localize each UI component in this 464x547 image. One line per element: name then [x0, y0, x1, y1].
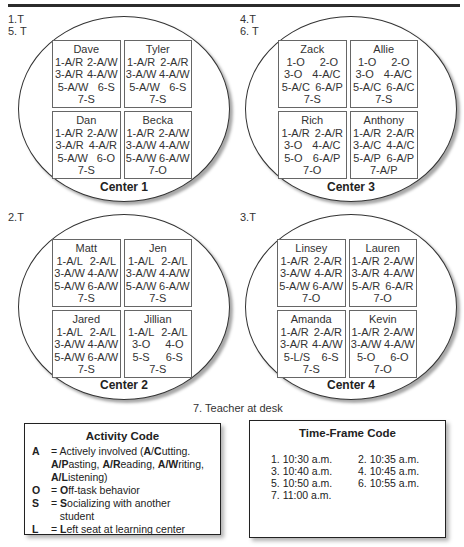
observation-code: 1-A/R — [281, 326, 309, 339]
observation-code: 6-O — [97, 152, 115, 165]
time-frame-legend: Time-Frame Code 1. 10:30 a.m.2. 10:35 a.… — [249, 420, 446, 538]
observation-row: 5-A/W6-A/W — [125, 280, 192, 293]
observation-row: 7-S — [351, 93, 418, 106]
observation-code: 1-A/R — [353, 127, 381, 140]
observation-row: 7-S — [53, 93, 120, 106]
observation-code: 7-S — [78, 363, 95, 376]
observation-code: 4-A/C — [312, 139, 340, 152]
observation-row: 5-A/W6-S — [125, 81, 192, 94]
observation-row: 5-A/W6-A/W — [53, 351, 120, 364]
observation-code: 2-A/R — [314, 255, 342, 268]
observation-row: 5-A/W6-A/W — [278, 280, 345, 293]
observation-code: 2-A/L — [90, 326, 116, 339]
time-label-center1: 1.T 5. T — [8, 13, 27, 37]
observation-row: 7-S — [125, 292, 192, 305]
observation-code: 3-A/R — [280, 338, 308, 351]
observation-code: 2-A/L — [90, 255, 116, 268]
observation-code: 5-L/S — [284, 351, 310, 364]
observation-code: 1-A/L — [56, 326, 82, 339]
observation-row: 1-A/L2-A/L — [125, 326, 192, 339]
observation-code: 2-A/R — [315, 127, 343, 140]
time-frame-item: 6. 10:55 a.m. — [358, 477, 445, 489]
observation-code: 6-A/W — [88, 351, 119, 364]
observation-code: 4-A/W — [383, 267, 414, 280]
observation-code: 3-A/W — [351, 338, 382, 351]
observation-code: 6-A/P — [315, 81, 343, 94]
time-label: 4.T — [240, 13, 259, 25]
student-seat: Allie1-O2-O3-O4-A/C5-A/C6-A/C7-S — [350, 40, 419, 108]
observation-code: 7-S — [78, 164, 95, 177]
student-seat: Anthony1-A/R2-A/R3-A/C4-A/C5-A/P6-A/P7-A… — [350, 111, 419, 179]
observation-code: 1-A/R — [282, 127, 310, 140]
time-frame-item: 2. 10:35 a.m. — [358, 453, 445, 465]
observation-row: 7-O — [350, 363, 417, 376]
observation-code: 3-A/R — [351, 267, 379, 280]
observation-code: 2-A/W — [158, 127, 189, 140]
activity-code-key: L — [25, 523, 51, 536]
observation-code: 6-A/W — [159, 280, 190, 293]
observation-code: 2-A/L — [161, 326, 187, 339]
observation-row: 7-S — [53, 164, 120, 177]
observation-row: 1-O2-O — [279, 56, 346, 69]
observation-code: 4-A/R — [89, 139, 117, 152]
observation-code: 6-A/C — [386, 81, 414, 94]
observation-code: 5-A/W — [126, 152, 157, 165]
observation-row: 1-A/L2-A/L — [53, 255, 120, 268]
observation-code: 6-A/P — [313, 152, 341, 165]
activity-code-key: A — [25, 445, 51, 484]
observation-code: 6-A/W — [159, 152, 190, 165]
observation-row: 5-A/W6-A/W — [53, 280, 120, 293]
observation-row: 1-A/L2-A/L — [53, 326, 120, 339]
observation-code: 2-A/R — [160, 56, 188, 69]
time-frame-list: 1. 10:30 a.m.2. 10:35 a.m.3. 10:40 a.m.4… — [271, 453, 445, 501]
observation-code: 4-A/R — [314, 267, 342, 280]
observation-code: 4-A/W — [87, 68, 118, 81]
observation-row: 5-S6-S — [125, 351, 192, 364]
activity-code-list: A= Actively involved (A/Cutting. A/Pasti… — [25, 445, 220, 536]
observation-row: 1-A/R2-A/R — [125, 56, 192, 69]
activity-code-description: = Socializing with another student — [51, 497, 220, 523]
observation-code: 3-O — [284, 139, 302, 152]
observation-code: 7-O — [303, 164, 321, 177]
observation-code: 5-A/W — [126, 280, 157, 293]
observation-code: 5-A/C — [282, 81, 310, 94]
time-frame-item: 5. 10:50 a.m. — [271, 477, 358, 489]
time-label: 6. T — [240, 25, 259, 37]
student-name: Dave — [53, 43, 120, 56]
observation-code: 5-A/C — [353, 81, 381, 94]
time-frame-item: 1. 10:30 a.m. — [271, 453, 358, 465]
observation-row: 7-O — [350, 292, 417, 305]
observation-code: 1-O — [358, 56, 376, 69]
observation-code: 4-O — [165, 338, 183, 351]
student-name: Amanda — [278, 313, 345, 326]
observation-code: 1-A/R — [351, 255, 379, 268]
observation-code: 5-A/W — [57, 152, 88, 165]
activity-code-title: Activity Code — [25, 430, 220, 442]
observation-row: 5-A/W6-O — [53, 152, 120, 165]
student-name: Lauren — [350, 242, 417, 255]
observation-code: 7-S — [304, 93, 321, 106]
student-seat: Zack1-O2-O3-O4-A/C5-A/C6-A/P7-S — [278, 40, 347, 108]
observation-code: 4-A/W — [159, 68, 190, 81]
activity-code-description: = Actively involved (A/Cutting. A/Pastin… — [51, 445, 220, 484]
observation-code: 3-A/W — [126, 68, 157, 81]
center-1-title: Center 1 — [18, 180, 230, 194]
observation-code: 2-A/W — [87, 56, 118, 69]
observation-row: 5-A/C6-A/P — [279, 81, 346, 94]
activity-code-item: S= Socializing with another student — [25, 497, 220, 523]
student-name: Becka — [125, 114, 192, 127]
observation-row: 1-A/L2-A/L — [125, 255, 192, 268]
observation-row: 1-A/R2-A/W — [350, 255, 417, 268]
observation-code: 4-A/C — [384, 68, 412, 81]
observation-code: 4-A/W — [88, 267, 119, 280]
observation-code: 6-O — [390, 351, 408, 364]
observation-row: 7-S — [278, 363, 345, 376]
observation-code: 5-O — [357, 351, 375, 364]
observation-row: 3-A/C4-A/C — [351, 139, 418, 152]
activity-code-key: S — [25, 497, 51, 523]
observation-code: 7-O — [374, 292, 392, 305]
observation-code: 4-A/W — [159, 139, 190, 152]
observation-code: 1-A/R — [281, 255, 309, 268]
observation-code: 1-O — [286, 56, 304, 69]
observation-code: 3-A/R — [55, 68, 83, 81]
